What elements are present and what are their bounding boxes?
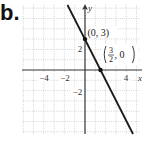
y-tick-neg2: −2 — [73, 87, 83, 97]
point-label-y-intercept: (0, 3) — [88, 27, 110, 39]
x-tick-neg2: −2 — [60, 73, 70, 83]
x-axis-label: x — [137, 73, 142, 83]
x-tick-neg4: −4 — [39, 73, 49, 83]
fraction-numerator: 3 — [109, 46, 113, 55]
graph: −4 −2 4 x 2 −2 y (0, 3) 3 2 , 0 — [0, 0, 142, 147]
point2-rest: , 0 — [115, 49, 125, 60]
y-tick-2: 2 — [78, 44, 83, 54]
x-tick-4: 4 — [124, 73, 129, 83]
fraction-denominator: 2 — [109, 55, 113, 64]
y-axis-label: y — [87, 3, 92, 13]
point-x-intercept — [98, 68, 102, 72]
